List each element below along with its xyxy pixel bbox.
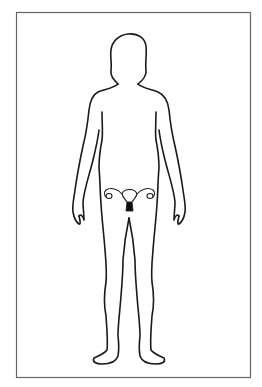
- body-diagram: [0, 0, 262, 387]
- diagram-canvas: [0, 0, 262, 387]
- frame-border: [17, 13, 251, 378]
- cervix-highlight: [126, 202, 133, 211]
